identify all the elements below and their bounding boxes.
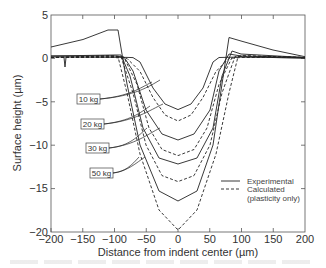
y-tick-label: −20 [29,226,48,238]
curve-calc-20kg [51,57,305,156]
load-label-30kg: 30 kg [88,144,108,153]
legend: Experimental Calculated (plasticity only… [221,177,300,203]
load-label-10kg: 10 kg [79,95,99,104]
x-tick-labels: −200 −150 −100 −50 0 50 100 150 200 [39,233,315,245]
x-tick-label: 200 [296,233,314,245]
y-tick-label: 0 [42,52,48,64]
y-tick-label: −10 [29,139,48,151]
load-label-50kg: 50 kg [92,169,112,178]
x-tick-label: −150 [70,233,95,245]
figure-caption-faded [10,260,310,264]
y-tick-labels: 5 0 −5 −10 −15 −20 [29,9,48,238]
x-tick-label: 100 [232,233,250,245]
x-tick-label: −50 [137,233,156,245]
y-tick-label: −5 [35,96,48,108]
curve-exp-spike [64,58,66,68]
x-axis-title: Distance from indent center (µm) [98,246,258,258]
y-axis-title: Surface height (µm) [11,75,23,172]
x-tick-label: −100 [102,233,127,245]
load-label-20kg: 20 kg [83,120,103,129]
y-tick-label: 5 [42,9,48,21]
legend-calculated-note: (plasticity only) [247,194,300,203]
x-tick-label: 150 [264,233,282,245]
y-tick-label: −15 [29,182,48,194]
experimental-curves [51,30,305,201]
legend-calculated: Calculated [247,185,285,194]
x-tick-label: 0 [175,233,181,245]
surface-profile-chart: −200 −150 −100 −50 0 50 100 150 200 5 0 … [0,0,326,268]
x-tick-label: 50 [204,233,216,245]
curve-calc-10kg [51,58,305,122]
load-annotations: 10 kg 20 kg 30 kg 50 kg [77,80,163,178]
